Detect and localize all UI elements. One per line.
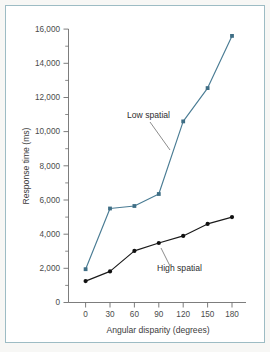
x-axis-tick-labels: 0 30 60 90 120 150 180 xyxy=(83,310,239,319)
y-tick-label: 10,000 xyxy=(35,127,60,136)
line-chart: 0 2,000 4,000 6,000 8,000 10,000 12,000 … xyxy=(0,0,270,352)
x-tick-label: 30 xyxy=(105,310,115,319)
y-tick-label: 2,000 xyxy=(40,264,61,273)
series-low-spatial-markers xyxy=(84,34,234,271)
series-low-spatial-line xyxy=(86,36,232,269)
x-axis-title: Angular disparity (degrees) xyxy=(106,325,209,335)
y-tick-label: 16,000 xyxy=(35,25,60,34)
y-tick-label: 12,000 xyxy=(35,93,60,102)
annotation-high-spatial-text: High spatial xyxy=(157,263,202,273)
annotation-low-spatial: Low spatial xyxy=(127,110,170,150)
y-tick-label: 4,000 xyxy=(40,230,61,239)
x-tick-label: 120 xyxy=(176,310,190,319)
annotation-high-spatial: High spatial xyxy=(157,248,202,273)
annotation-low-spatial-leader xyxy=(150,122,170,150)
y-axis-major-ticks xyxy=(64,29,69,302)
series-low-spatial xyxy=(84,34,234,271)
y-tick-label: 8,000 xyxy=(40,162,61,171)
annotation-low-spatial-text: Low spatial xyxy=(127,110,170,120)
y-tick-label: 6,000 xyxy=(40,196,61,205)
x-tick-label: 150 xyxy=(201,310,215,319)
y-tick-label: 14,000 xyxy=(35,59,60,68)
x-tick-label: 60 xyxy=(130,310,140,319)
x-axis-major-ticks xyxy=(86,303,232,308)
x-tick-label: 0 xyxy=(83,310,88,319)
y-axis-title: Response time (ms) xyxy=(21,127,31,204)
figure-container: 0 2,000 4,000 6,000 8,000 10,000 12,000 … xyxy=(0,0,270,352)
y-axis-tick-labels: 0 2,000 4,000 6,000 8,000 10,000 12,000 … xyxy=(35,25,60,307)
y-tick-label: 0 xyxy=(55,298,60,307)
x-tick-label: 180 xyxy=(225,310,239,319)
x-tick-label: 90 xyxy=(154,310,164,319)
